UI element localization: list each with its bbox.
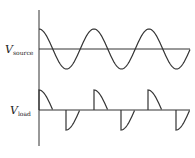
v-source-label: Vsource [5,43,34,56]
load-positive-pulse [148,90,162,110]
load-positive-pulse [94,90,108,110]
load-negative-pulse [121,110,135,130]
load-negative-pulse [66,110,80,130]
waveform-diagram: Vsource Vload [0,0,195,158]
load-negative-pulse [176,110,190,130]
v-load-label: Vload [10,104,31,117]
load-positive-pulse [39,90,53,110]
